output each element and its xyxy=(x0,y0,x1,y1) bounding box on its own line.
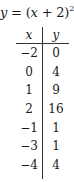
table-cell-x: −3 xyxy=(16,139,42,153)
column-header-y: y xyxy=(43,28,69,42)
equation-equals: = ( xyxy=(7,5,30,20)
column-header-x: x xyxy=(16,28,42,42)
table-cell-y: 4 xyxy=(43,158,69,172)
table-cell-y: 1 xyxy=(43,121,69,135)
table-header-divider xyxy=(16,43,69,44)
equation-exponent: 2 xyxy=(69,4,74,13)
equation-rest: + 2) xyxy=(38,5,70,20)
table-cell-y: 1 xyxy=(43,139,69,153)
table-cell-y: 16 xyxy=(43,102,69,116)
table-cell-x: −4 xyxy=(16,158,42,172)
table-cell-y: 0 xyxy=(43,46,69,60)
equation-variable: x xyxy=(31,5,38,20)
table-cell-x: −2 xyxy=(16,46,42,60)
table-cell-x: −1 xyxy=(16,121,42,135)
equation-title: y = (x + 2)2 xyxy=(0,5,74,20)
table-cell-y: 4 xyxy=(43,65,69,79)
table-cell-x: 1 xyxy=(16,83,42,97)
table-cell-y: 9 xyxy=(43,83,69,97)
table-cell-x: 0 xyxy=(16,65,42,79)
table-cell-x: 2 xyxy=(16,102,42,116)
